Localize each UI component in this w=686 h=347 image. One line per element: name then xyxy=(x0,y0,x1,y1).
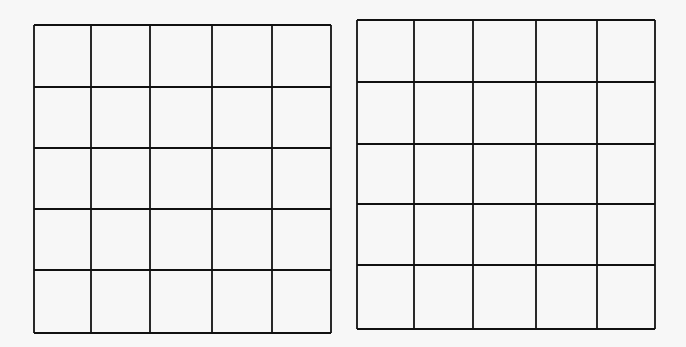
left-grid xyxy=(34,25,331,333)
right-grid xyxy=(357,20,655,329)
grids-canvas xyxy=(0,0,686,347)
